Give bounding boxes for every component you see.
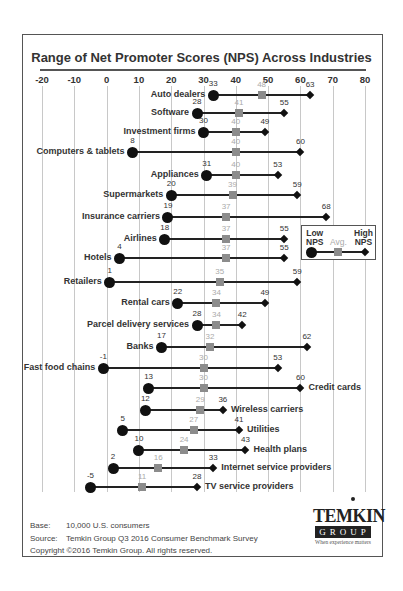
low-marker-icon: [166, 190, 177, 201]
legend-avg-label: Avg.: [330, 238, 347, 247]
x-tick-label: -20: [27, 74, 57, 85]
low-marker-icon: [143, 383, 154, 394]
avg-value-label: 16: [148, 453, 168, 462]
avg-value-label: 34: [206, 288, 226, 297]
gridline: [204, 86, 205, 492]
avg-value-label: 40: [226, 160, 246, 169]
x-tick-label: 0: [92, 74, 122, 85]
range-line: [145, 409, 223, 411]
high-value-label: 36: [213, 395, 233, 404]
low-value-label: 13: [139, 372, 159, 381]
high-value-label: 28: [187, 472, 207, 481]
high-value-label: 33: [203, 453, 223, 462]
logo-wordmark: TEMKIN: [313, 507, 373, 525]
range-line: [113, 467, 213, 469]
category-label: Utilities: [247, 424, 280, 434]
high-value-label: 53: [268, 160, 288, 169]
avg-marker-icon: [232, 148, 240, 156]
high-value-label: 49: [255, 288, 275, 297]
footer-base-key: Base:: [30, 520, 66, 533]
low-value-label: 28: [187, 309, 207, 318]
x-tick-label: 10: [124, 74, 154, 85]
high-value-label: 55: [274, 224, 294, 233]
category-label: Fast food chains: [24, 362, 96, 372]
low-value-label: 2: [103, 452, 123, 461]
high-value-label: 43: [235, 435, 255, 444]
avg-marker-icon: [180, 446, 188, 454]
low-marker-icon: [198, 127, 209, 138]
legend-high-label: High NPS: [354, 229, 373, 247]
gridline: [365, 86, 366, 492]
low-marker-icon: [172, 298, 183, 309]
low-value-label: 10: [129, 434, 149, 443]
category-label: Software: [151, 107, 189, 117]
range-line: [120, 257, 285, 259]
x-tick-label: -10: [59, 74, 89, 85]
temkin-group-logo: TEMKIN GROUP When experience matters: [313, 497, 373, 552]
low-marker-icon: [104, 277, 115, 288]
low-value-label: 18: [155, 223, 175, 232]
x-tick-label: 80: [350, 74, 380, 85]
avg-marker-icon: [154, 464, 162, 472]
avg-marker-icon: [138, 483, 146, 491]
range-line: [123, 429, 239, 431]
low-value-label: 8: [122, 136, 142, 145]
low-marker-icon: [192, 320, 203, 331]
avg-value-label: 29: [190, 395, 210, 404]
category-label: Computers & tablets: [36, 146, 124, 156]
avg-marker-icon: [232, 171, 240, 179]
avg-marker-icon: [196, 406, 204, 414]
high-value-label: 41: [229, 415, 249, 424]
range-line: [178, 302, 265, 304]
low-value-label: 22: [168, 287, 188, 296]
avg-marker-icon: [200, 364, 208, 372]
low-value-label: 1: [100, 266, 120, 275]
avg-marker-icon: [222, 213, 230, 221]
high-value-label: 62: [297, 332, 317, 341]
category-label: Banks: [127, 341, 154, 351]
avg-value-label: 37: [216, 202, 236, 211]
avg-marker-icon: [206, 343, 214, 351]
category-label: Credit cards: [308, 382, 361, 392]
high-value-label: 63: [300, 80, 320, 89]
legend-low-label: Low NPS: [306, 229, 323, 247]
category-label: Health plans: [253, 444, 307, 454]
avg-value-label: 27: [184, 415, 204, 424]
logo-tagline: When experience matters: [313, 539, 373, 545]
x-tick-label: 70: [318, 74, 348, 85]
low-marker-icon: [108, 463, 119, 474]
legend-avg-marker-icon: [334, 248, 342, 256]
low-marker-icon: [117, 425, 128, 436]
high-value-label: 49: [255, 117, 275, 126]
avg-marker-icon: [222, 235, 230, 243]
high-value-label: 42: [232, 310, 252, 319]
low-value-label: 17: [152, 331, 172, 340]
low-marker-icon: [127, 147, 138, 158]
avg-value-label: 32: [200, 332, 220, 341]
category-label: Insurance carriers: [82, 211, 160, 221]
high-value-label: 60: [290, 373, 310, 382]
range-line: [168, 216, 326, 218]
avg-value-label: 41: [229, 98, 249, 107]
gridline: [333, 86, 334, 492]
high-value-label: 55: [274, 243, 294, 252]
avg-value-label: 35: [210, 267, 230, 276]
avg-marker-icon: [232, 128, 240, 136]
high-value-label: 59: [287, 267, 307, 276]
avg-marker-icon: [212, 299, 220, 307]
low-marker-icon: [201, 170, 212, 181]
footer-source-value: Temkin Group Q3 2016 Consumer Benchmark …: [66, 534, 258, 543]
category-label: Wireless carriers: [231, 404, 303, 414]
high-value-label: 68: [316, 202, 336, 211]
legend-high-marker-icon: [361, 248, 369, 256]
range-line: [103, 367, 277, 369]
footer-copyright: Copyright ©2016 Temkin Group. All rights…: [30, 545, 258, 558]
low-value-label: 33: [203, 79, 223, 88]
category-label: Rental cars: [121, 297, 170, 307]
avg-value-label: 30: [194, 373, 214, 382]
range-line: [110, 281, 297, 283]
axis-rule: [40, 69, 366, 71]
avg-value-label: 24: [174, 435, 194, 444]
avg-value-label: 34: [206, 310, 226, 319]
footer-source-key: Source:: [30, 533, 66, 546]
